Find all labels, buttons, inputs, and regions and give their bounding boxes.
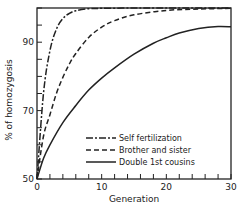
chart: 0102030507090 Self fertilizationBrother … [0,0,242,207]
legend-label: Brother and sister [119,146,192,155]
legend-label: Double 1st cousins [119,158,195,167]
legend-label: Self fertilization [119,134,182,143]
y-tick-label: 70 [23,106,35,116]
series-line-double-1st-cousins [37,26,231,179]
x-tick-label: 30 [225,182,237,192]
x-tick-label: 0 [34,182,40,192]
x-axis-label: Generation [109,194,159,204]
x-tick-label: 20 [161,182,173,192]
x-tick-label: 10 [96,182,108,192]
y-tick-label: 50 [23,174,35,184]
y-axis-label: % of homozygosis [4,59,14,141]
legend: Self fertilizationBrother and sisterDoub… [86,134,195,167]
y-tick-label: 90 [23,37,35,47]
